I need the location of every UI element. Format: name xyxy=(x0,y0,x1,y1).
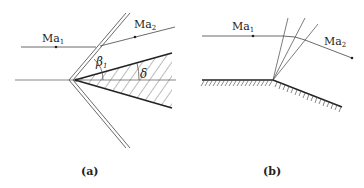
panel-b: Ma1 Ma2 (b) xyxy=(201,18,353,178)
caption-b: (b) xyxy=(263,165,281,178)
downstream-arrow-icon-b xyxy=(351,57,354,60)
downstream-arrow-icon xyxy=(134,36,137,39)
label-ma2-b: Ma2 xyxy=(324,35,346,49)
wall-hatch xyxy=(201,81,341,112)
caption-a: (a) xyxy=(81,165,99,178)
wedge-vertex xyxy=(74,78,77,81)
upstream-arrow-icon xyxy=(55,46,58,49)
label-beta: β1 xyxy=(95,55,107,70)
upstream-arrow-icon-b xyxy=(252,35,255,38)
wall-surface xyxy=(202,80,342,107)
label-ma2-a: Ma2 xyxy=(134,18,156,32)
label-ma1-b: Ma1 xyxy=(232,20,254,34)
label-ma1-a: Ma1 xyxy=(42,32,64,46)
expansion-fan xyxy=(273,18,318,80)
label-delta: δ xyxy=(140,67,147,81)
figure: Ma1 Ma2 β1 δ (a) xyxy=(0,0,364,188)
panel-a: Ma1 Ma2 β1 δ (a) xyxy=(15,13,180,178)
